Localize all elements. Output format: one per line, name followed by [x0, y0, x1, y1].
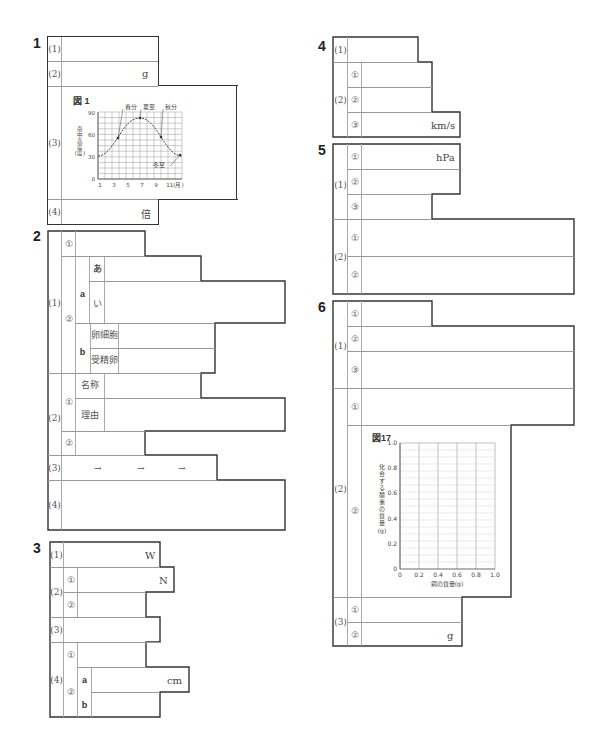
unit-g: g: [447, 630, 453, 641]
svg-text:0.2: 0.2: [414, 571, 424, 578]
svg-text:0.8: 0.8: [387, 464, 397, 471]
svg-text:素: 素: [379, 498, 385, 505]
svg-text:(g): (g): [378, 527, 387, 535]
svg-text:0.8: 0.8: [471, 571, 481, 578]
svg-text:量: 量: [379, 519, 385, 527]
svg-text:0.6: 0.6: [387, 489, 397, 496]
svg-text:0.2: 0.2: [387, 540, 397, 547]
svg-text:0: 0: [398, 571, 402, 578]
svg-text:の: の: [379, 505, 385, 512]
answer-frame: [0, 0, 606, 752]
svg-text:1.0: 1.0: [387, 439, 397, 446]
svg-text:0.4: 0.4: [387, 515, 397, 522]
svg-text:銅の質量(g): 銅の質量(g): [431, 580, 464, 588]
svg-text:0.6: 0.6: [452, 571, 462, 578]
svg-text:る: る: [379, 484, 385, 491]
svg-text:0.4: 0.4: [433, 571, 443, 578]
svg-text:0: 0: [393, 565, 397, 572]
svg-text:1.0: 1.0: [490, 571, 500, 578]
